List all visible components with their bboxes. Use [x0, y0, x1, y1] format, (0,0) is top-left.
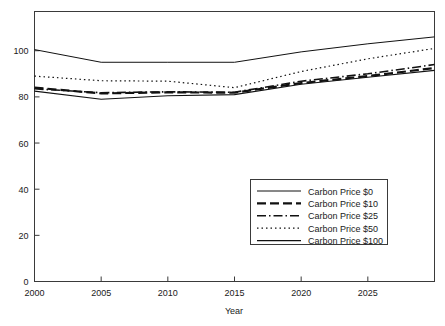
series-group [35, 37, 435, 99]
x-tick-label: 2015 [224, 288, 244, 298]
x-axis-title: Year [225, 306, 243, 316]
chart-container: 020406080100 200020052010201520202025 Ye… [0, 0, 445, 326]
y-tick-label: 60 [18, 139, 28, 149]
series-line-3 [35, 48, 435, 87]
y-tick-label: 20 [18, 231, 28, 241]
x-tick-label: 2010 [158, 288, 178, 298]
y-tick-label: 0 [23, 277, 28, 287]
legend-label-0: Carbon Price $0 [308, 187, 373, 197]
series-line-0 [35, 37, 435, 62]
legend-label-2: Carbon Price $25 [308, 211, 378, 221]
y-tick-label: 80 [18, 92, 28, 102]
y-tick-label: 100 [13, 46, 28, 56]
x-tick-label: 2005 [91, 288, 111, 298]
series-line-1 [35, 68, 435, 93]
series-line-2 [35, 65, 435, 93]
x-tick-label: 2000 [24, 288, 44, 298]
x-tick-label: 2025 [358, 288, 378, 298]
legend-label-4: Carbon Price $100 [308, 236, 383, 246]
y-axis-ticks: 020406080100 [13, 46, 39, 287]
legend-label-3: Carbon Price $50 [308, 224, 378, 234]
x-tick-label: 2020 [291, 288, 311, 298]
line-chart: 020406080100 200020052010201520202025 Ye… [0, 0, 445, 326]
chart-legend: Carbon Price $0Carbon Price $10Carbon Pr… [251, 180, 388, 247]
legend-label-1: Carbon Price $10 [308, 199, 378, 209]
y-tick-label: 40 [18, 185, 28, 195]
x-axis-ticks: 200020052010201520202025 [24, 277, 377, 298]
